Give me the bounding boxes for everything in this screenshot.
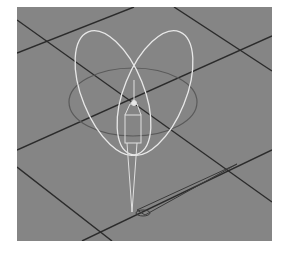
viewport-canvas[interactable]: [17, 7, 272, 241]
ground-grid: [17, 7, 272, 241]
bone-chain[interactable]: [125, 80, 141, 212]
3d-viewport[interactable]: [17, 7, 272, 241]
